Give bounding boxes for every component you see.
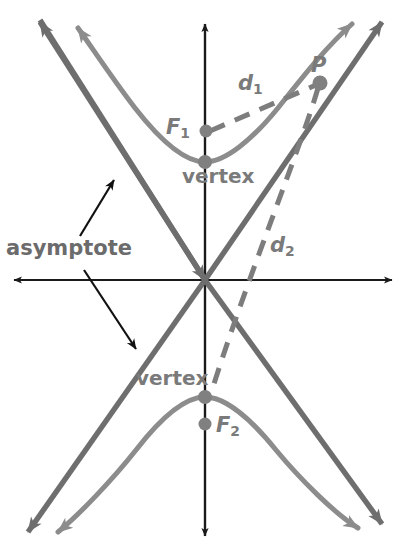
distance-lines-group xyxy=(210,85,318,390)
distance-2-label-letter: d xyxy=(270,233,285,257)
vertex-top-label: vertex xyxy=(182,166,255,186)
focus-1-label: F1 xyxy=(166,117,190,141)
distance-1-label-subscript: 1 xyxy=(253,81,263,97)
asymptote-pointer-up-arrow xyxy=(80,180,114,236)
distance-2-label-subscript: 2 xyxy=(285,243,295,259)
focus-1-point xyxy=(200,125,213,138)
point-p-label: P xyxy=(311,55,326,76)
focus-1-label-subscript: 1 xyxy=(180,125,190,141)
focus-2-point xyxy=(199,418,212,431)
distance-2-label: d2 xyxy=(270,235,295,259)
focus-2-label-subscript: 2 xyxy=(230,423,240,439)
asymptote-label: asymptote xyxy=(6,238,132,259)
asymptote-pointer-down-arrow xyxy=(84,270,136,349)
distance-d2-segment xyxy=(212,88,318,390)
distance-1-label: d1 xyxy=(238,73,263,97)
vertex-bottom-label: vertex xyxy=(136,368,209,388)
vertex-bottom-point xyxy=(198,390,212,404)
focus-1-label-letter: F xyxy=(166,115,180,139)
diagram-canvas xyxy=(0,0,402,558)
point-p-marker xyxy=(313,76,328,91)
asymptote-pointer-group xyxy=(80,180,136,349)
hyperbola-branch-lower-left xyxy=(58,397,205,532)
hyperbola-branch-upper-right xyxy=(205,24,352,162)
hyperbola-branch-upper-left xyxy=(78,28,205,162)
focus-2-label-letter: F xyxy=(216,413,230,437)
asymptote-arrow-se xyxy=(205,280,382,524)
distance-1-label-letter: d xyxy=(238,71,253,95)
hyperbola-diagram: asymptote vertex vertex F1 F2 d1 d2 P xyxy=(0,0,402,558)
focus-2-label: F2 xyxy=(216,415,240,439)
